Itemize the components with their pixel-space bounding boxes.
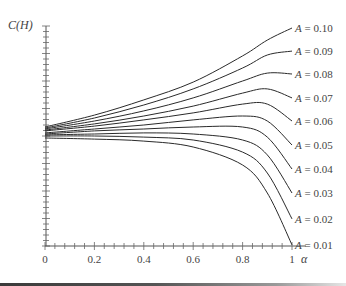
x-tick-label: 0.8 bbox=[236, 253, 250, 265]
curve bbox=[45, 133, 292, 193]
curve-label: A = 0.08 bbox=[294, 68, 333, 80]
curve bbox=[45, 89, 292, 130]
curve-label: A = 0.06 bbox=[294, 115, 333, 127]
curve-label: A = 0.03 bbox=[294, 187, 333, 199]
x-tick-label: 0.6 bbox=[186, 253, 200, 265]
x-axis: 00.20.40.60.81 bbox=[42, 242, 306, 265]
x-tick-label: 0.4 bbox=[137, 253, 151, 265]
curve-label: A = 0.04 bbox=[294, 163, 333, 175]
curve-label: A = 0.07 bbox=[294, 92, 333, 104]
x-tick-label: 0 bbox=[42, 253, 48, 265]
x-tick-label: 0.2 bbox=[88, 253, 102, 265]
x-axis-label: α bbox=[301, 252, 308, 266]
curve-label: A = 0.09 bbox=[294, 45, 333, 57]
curve-label: A = 0.02 bbox=[294, 213, 333, 225]
x-tick-label: 1 bbox=[289, 253, 295, 265]
chart: 00.20.40.60.81 A = 0.10A = 0.09A = 0.08A… bbox=[0, 0, 346, 286]
curve-label: A = 0.01 bbox=[294, 239, 333, 251]
curve bbox=[45, 136, 292, 219]
curve-labels: A = 0.10A = 0.09A = 0.08A = 0.07A = 0.06… bbox=[294, 22, 333, 251]
curve-label: A = 0.10 bbox=[294, 22, 333, 34]
curve-label: A = 0.05 bbox=[294, 139, 333, 151]
curves bbox=[45, 28, 292, 245]
curve bbox=[45, 138, 292, 245]
y-axis-label: C(H) bbox=[8, 18, 33, 32]
curve bbox=[45, 28, 292, 127]
